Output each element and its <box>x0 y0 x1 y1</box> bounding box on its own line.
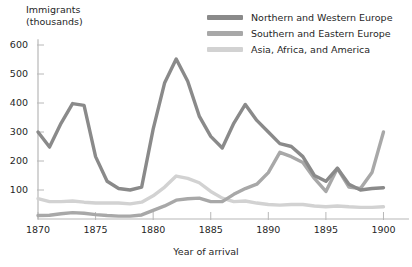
x-tick-label: 1885 <box>191 224 231 235</box>
immigration-line-chart: Immigrants(thousands) 100200300400500600… <box>0 0 412 267</box>
legend-item-label: Southern and Eastern Europe <box>251 28 391 39</box>
chart-legend: Northern and Western EuropeSouthern and … <box>207 9 411 57</box>
legend-item-label: Asia, Africa, and America <box>251 44 370 55</box>
x-tick-label: 1875 <box>76 224 116 235</box>
x-axis-title: Year of arrival <box>0 246 412 258</box>
y-tick-label: 500 <box>2 68 28 79</box>
y-axis-title: Immigrants(thousands) <box>26 4 83 28</box>
x-tick-label: 1895 <box>306 224 346 235</box>
legend-swatch-icon <box>207 47 243 52</box>
x-tick-label: 1870 <box>18 224 58 235</box>
x-tick-label: 1890 <box>248 224 288 235</box>
y-tick-label: 200 <box>2 155 28 166</box>
y-tick-label: 400 <box>2 97 28 108</box>
legend-item-label: Northern and Western Europe <box>251 12 392 23</box>
y-tick-label: 600 <box>2 39 28 50</box>
axis-lines <box>38 39 409 219</box>
x-tick-label: 1880 <box>133 224 173 235</box>
x-tick-label: 1900 <box>363 224 403 235</box>
series-line-1 <box>38 59 383 190</box>
y-tick-label: 300 <box>2 126 28 137</box>
legend-swatch-icon <box>207 31 243 36</box>
legend-swatch-icon <box>207 15 243 20</box>
y-tick-label: 100 <box>2 184 28 195</box>
y-axis-title-line2: (thousands) <box>26 16 83 27</box>
legend-item: Northern and Western Europe <box>207 9 411 25</box>
legend-item: Asia, Africa, and America <box>207 41 411 57</box>
y-axis-title-line1: Immigrants <box>26 4 80 15</box>
legend-item: Southern and Eastern Europe <box>207 25 411 41</box>
